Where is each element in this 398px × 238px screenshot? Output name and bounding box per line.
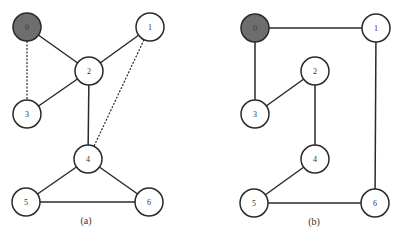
node-5: 5 [240, 189, 268, 217]
node-4: 4 [301, 145, 329, 173]
graph-a-caption: (a) [80, 215, 91, 227]
node-label: 1 [374, 24, 378, 33]
graph-b-edges [254, 28, 376, 203]
node-label: 0 [253, 24, 257, 33]
node-6: 6 [361, 189, 389, 217]
edge-1-4-dashed [88, 27, 150, 159]
graph-b: 0123456 (b) [240, 14, 390, 228]
node-label: 0 [25, 23, 29, 32]
node-label: 2 [87, 67, 91, 76]
node-label: 3 [25, 110, 29, 119]
graph-b-caption: (b) [308, 216, 320, 228]
edge-1-6 [375, 28, 376, 203]
node-2: 2 [75, 57, 103, 85]
figure: 0123456 (a) 0123456 (b) [0, 0, 398, 238]
node-label: 1 [148, 23, 152, 32]
node-3: 3 [13, 100, 41, 128]
node-2: 2 [301, 57, 329, 85]
node-1: 1 [362, 14, 390, 42]
node-0: 0 [241, 14, 269, 42]
graph-figure: 0123456 (a) 0123456 (b) [0, 0, 398, 238]
node-label: 5 [24, 198, 28, 207]
graph-a-edges [26, 27, 150, 202]
node-1: 1 [136, 13, 164, 41]
node-label: 4 [313, 155, 317, 164]
graph-a: 0123456 (a) [12, 13, 164, 227]
node-5: 5 [12, 188, 40, 216]
node-label: 5 [252, 199, 256, 208]
node-3: 3 [241, 100, 269, 128]
node-label: 3 [253, 110, 257, 119]
node-4: 4 [74, 145, 102, 173]
node-label: 2 [313, 67, 317, 76]
node-0: 0 [13, 13, 41, 41]
node-label: 4 [86, 155, 90, 164]
node-6: 6 [135, 188, 163, 216]
node-label: 6 [373, 199, 377, 208]
node-label: 6 [147, 198, 151, 207]
